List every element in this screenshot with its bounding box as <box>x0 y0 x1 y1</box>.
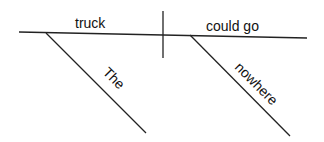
predicate-word: could go <box>206 18 259 34</box>
subject-modifier-line <box>46 33 146 133</box>
subject-modifier-word: The <box>100 64 129 93</box>
diagram-svg: truck could go The nowhere <box>0 0 324 142</box>
predicate-modifier-word: nowhere <box>232 59 281 108</box>
predicate-modifier-line <box>190 35 290 136</box>
subject-word: truck <box>75 15 106 31</box>
sentence-diagram: truck could go The nowhere <box>0 0 324 142</box>
